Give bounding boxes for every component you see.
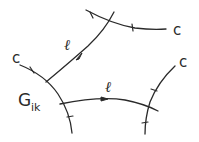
diagram-canvas: c ℓ c ℓ c G ik [0,0,199,142]
arrow-icon [101,97,108,101]
region-label-g: G [18,90,31,110]
label-c-left: c [12,49,20,67]
label-c-top: c [173,21,181,39]
region-label-subscript: ik [31,101,41,114]
curve-l-lower [60,97,158,111]
label-l-lower: ℓ [105,78,111,96]
curve-c-right [142,66,175,134]
curve-l-upper [46,12,114,82]
label-l-upper: ℓ [64,36,70,54]
curve-c-top [86,10,166,31]
label-c-right: c [179,53,187,71]
